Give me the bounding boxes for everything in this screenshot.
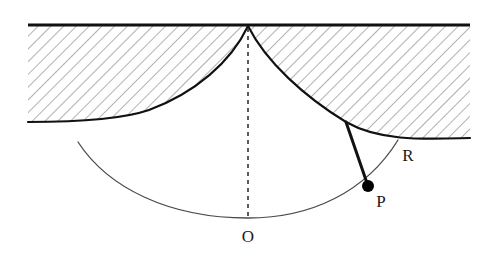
label-P: P [376, 192, 385, 211]
cycloidal-pendulum-diagram: O P R [0, 0, 494, 278]
diagram-canvas: O P R [0, 0, 494, 278]
pendulum-string [346, 122, 368, 186]
pendulum-swing-arc [78, 140, 398, 218]
label-O: O [242, 227, 254, 246]
label-R: R [402, 146, 414, 165]
pendulum-bob-marker [362, 180, 374, 192]
